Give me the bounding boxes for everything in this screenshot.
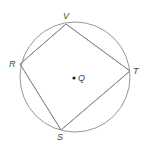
side-vt <box>66 24 130 71</box>
label-q: Q <box>78 73 85 83</box>
label-r: R <box>9 59 16 69</box>
label-s: S <box>57 132 63 142</box>
geometry-diagram: V R T S Q <box>0 0 152 147</box>
label-t: T <box>133 66 140 76</box>
side-ts <box>61 71 130 130</box>
label-v: V <box>63 11 70 21</box>
center-point-dot <box>72 76 75 79</box>
side-rv <box>20 24 66 64</box>
